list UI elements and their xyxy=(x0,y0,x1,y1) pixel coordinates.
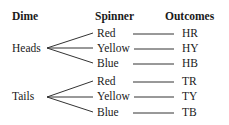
outcome-hb: HB xyxy=(182,57,198,69)
spinner-heads-yellow: Yellow xyxy=(97,42,130,54)
outcome-hy: HY xyxy=(182,42,199,54)
header-spinner: Spinner xyxy=(95,10,134,22)
dime-heads: Heads xyxy=(12,42,41,54)
spinner-tails-blue: Blue xyxy=(97,106,119,118)
branch-tails-blue xyxy=(47,97,93,112)
spinner-tails-red: Red xyxy=(97,75,116,87)
spinner-heads-blue: Blue xyxy=(97,57,119,69)
outcome-tr: TR xyxy=(182,75,197,87)
header-outcomes: Outcomes xyxy=(165,10,214,22)
branch-heads-blue xyxy=(47,48,93,63)
spinner-tails-yellow: Yellow xyxy=(97,90,130,102)
branch-tails-red xyxy=(47,81,93,97)
outcome-ty: TY xyxy=(182,90,197,102)
header-dime: Dime xyxy=(12,10,38,22)
outcome-tb: TB xyxy=(182,106,197,118)
spinner-heads-red: Red xyxy=(97,27,116,39)
dime-tails: Tails xyxy=(12,90,34,102)
outcome-hr: HR xyxy=(182,27,198,39)
branch-heads-red xyxy=(47,33,93,48)
